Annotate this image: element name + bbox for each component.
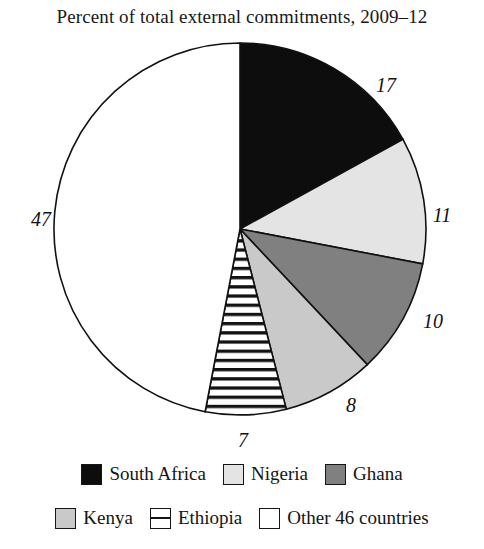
- pie-slice-other-46-countries[interactable]: [54, 43, 240, 412]
- slice-value-label-ethiopia: 7: [238, 429, 248, 452]
- slice-value-label-ghana: 10: [423, 310, 443, 333]
- slice-value-label-nigeria: 11: [433, 204, 452, 227]
- legend-item-kenya[interactable]: Kenya: [55, 507, 133, 529]
- legend-swatch-other-46-countries: [259, 508, 280, 529]
- legend-swatch-ghana: [325, 464, 346, 485]
- legend-label-ethiopia: Ethiopia: [178, 507, 242, 529]
- pie-plot-area: 1711108747: [0, 0, 484, 455]
- slice-value-label-other-46-countries: 47: [31, 208, 51, 231]
- pie-svg: [0, 0, 484, 455]
- legend-label-other-46-countries: Other 46 countries: [287, 507, 428, 529]
- legend-swatch-ethiopia: [150, 508, 171, 529]
- legend-item-ethiopia[interactable]: Ethiopia: [150, 507, 242, 529]
- legend-item-ghana[interactable]: Ghana: [325, 463, 403, 485]
- pie-slices: [54, 43, 426, 415]
- legend-swatch-nigeria: [223, 464, 244, 485]
- legend-item-south-africa[interactable]: South Africa: [81, 463, 206, 485]
- legend-swatch-kenya: [55, 508, 76, 529]
- legend-label-nigeria: Nigeria: [251, 463, 308, 485]
- legend-row: KenyaEthiopiaOther 46 countries: [0, 496, 484, 540]
- legend-item-nigeria[interactable]: Nigeria: [223, 463, 308, 485]
- slice-value-label-kenya: 8: [346, 394, 356, 417]
- legend-item-other-46-countries[interactable]: Other 46 countries: [259, 507, 428, 529]
- legend-swatch-south-africa: [81, 464, 102, 485]
- chart-legend: South AfricaNigeriaGhanaKenyaEthiopiaOth…: [0, 452, 484, 547]
- legend-label-south-africa: South Africa: [109, 463, 206, 485]
- legend-label-ghana: Ghana: [353, 463, 403, 485]
- slice-value-label-south-africa: 17: [376, 74, 396, 97]
- legend-row: South AfricaNigeriaGhana: [0, 452, 484, 496]
- legend-label-kenya: Kenya: [83, 507, 133, 529]
- pie-chart-figure: Percent of total external commitments, 2…: [0, 0, 484, 549]
